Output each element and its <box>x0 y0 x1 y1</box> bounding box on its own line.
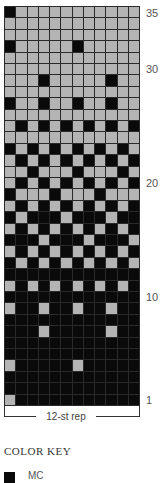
chart-cell <box>84 178 94 188</box>
chart-cell <box>61 121 71 131</box>
chart-cell <box>39 338 49 348</box>
chart-cell <box>50 246 60 256</box>
chart-cell <box>50 155 60 165</box>
chart-cell <box>28 110 38 120</box>
chart-cell <box>73 178 83 188</box>
chart-cell <box>118 64 128 74</box>
chart-cell <box>129 167 139 177</box>
chart-cell <box>5 132 15 142</box>
chart-cell <box>73 258 83 268</box>
chart-cell <box>129 303 139 313</box>
chart-cell <box>39 167 49 177</box>
chart-cell <box>118 75 128 85</box>
chart-cell <box>84 18 94 28</box>
chart-cell <box>39 224 49 234</box>
chart-cell <box>84 30 94 40</box>
chart-cell <box>28 87 38 97</box>
chart-cell <box>28 269 38 279</box>
chart-cell <box>5 41 15 51</box>
chart-cell <box>5 338 15 348</box>
chart-cell <box>129 121 139 131</box>
chart-cell <box>73 292 83 302</box>
chart-cell <box>84 87 94 97</box>
chart-cell <box>50 292 60 302</box>
chart-cell <box>5 395 15 405</box>
chart-cell <box>16 201 26 211</box>
chart-cell <box>95 349 105 359</box>
chart-cell <box>50 167 60 177</box>
chart-cell <box>95 167 105 177</box>
chart-cell <box>39 132 49 142</box>
chart-cell <box>50 87 60 97</box>
chart-cell <box>39 64 49 74</box>
chart-cell <box>28 360 38 370</box>
chart-cell <box>61 360 71 370</box>
chart-cell <box>50 178 60 188</box>
chart-cell <box>106 258 116 268</box>
chart-cell <box>84 75 94 85</box>
chart-cell <box>95 110 105 120</box>
chart-cell <box>28 132 38 142</box>
chart-cell <box>95 53 105 63</box>
chart-cell <box>106 383 116 393</box>
chart-cell <box>73 121 83 131</box>
chart-cell <box>50 64 60 74</box>
chart-cell <box>50 121 60 131</box>
chart-cell <box>84 360 94 370</box>
chart-cell <box>39 349 49 359</box>
chart-cell <box>39 7 49 17</box>
chart-cell <box>61 258 71 268</box>
chart-cell <box>84 144 94 154</box>
chart-cell <box>50 132 60 142</box>
chart-cell <box>39 178 49 188</box>
chart-cell <box>95 326 105 336</box>
chart-cell <box>16 224 26 234</box>
chart-cell <box>84 132 94 142</box>
chart-cell <box>50 30 60 40</box>
chart-cell <box>16 87 26 97</box>
chart-cell <box>84 224 94 234</box>
chart-cell <box>5 201 15 211</box>
chart-cell <box>61 303 71 313</box>
chart-cell <box>16 349 26 359</box>
chart-cell <box>28 18 38 28</box>
chart-cell <box>95 64 105 74</box>
chart-cell <box>16 212 26 222</box>
chart-cell <box>39 315 49 325</box>
chart-cell <box>118 303 128 313</box>
repeat-label: 12-st rep <box>36 410 96 424</box>
chart-cell <box>95 201 105 211</box>
chart-cell <box>16 18 26 28</box>
chart-cell <box>28 281 38 291</box>
chart-cell <box>16 155 26 165</box>
chart-cell <box>73 30 83 40</box>
chart-cell <box>61 110 71 120</box>
chart-cell <box>129 338 139 348</box>
chart-cell <box>28 372 38 382</box>
chart-cell <box>73 383 83 393</box>
chart-cell <box>39 53 49 63</box>
chart-cell <box>50 315 60 325</box>
chart-cell <box>73 155 83 165</box>
chart-cell <box>61 246 71 256</box>
chart-cell <box>118 110 128 120</box>
chart-cell <box>95 292 105 302</box>
chart-cell <box>84 155 94 165</box>
chart-cell <box>95 246 105 256</box>
chart-cell <box>118 98 128 108</box>
chart-cell <box>50 144 60 154</box>
chart-cell <box>16 144 26 154</box>
chart-cell <box>73 315 83 325</box>
chart-cell <box>28 246 38 256</box>
row-label-30: 30 <box>146 64 158 75</box>
chart-cell <box>129 212 139 222</box>
chart-cell <box>16 121 26 131</box>
chart-cell <box>129 155 139 165</box>
chart-cell <box>39 281 49 291</box>
chart-cell <box>16 53 26 63</box>
chart-cell <box>50 338 60 348</box>
chart-cell <box>129 75 139 85</box>
chart-cell <box>73 87 83 97</box>
chart-cell <box>106 201 116 211</box>
chart-cell <box>39 144 49 154</box>
